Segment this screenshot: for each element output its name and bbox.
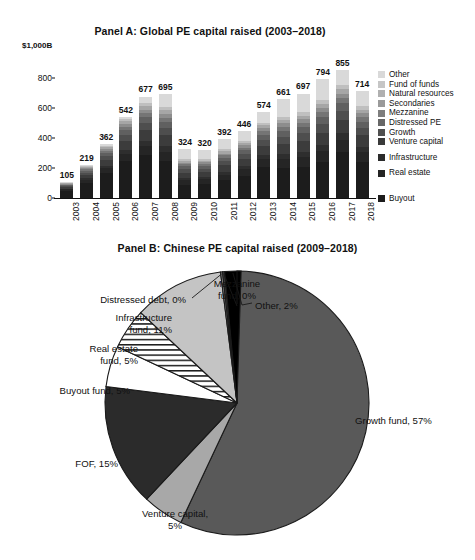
pie-slice-label: Real estatefund, 5% (89, 343, 138, 367)
panel-a-x-tick-label: 2004 (91, 202, 101, 221)
pie-slice-label: Other, 2% (255, 300, 298, 312)
panel-a-bar-group[interactable]: 542 (119, 48, 132, 198)
panel-a-bar-stack (238, 131, 251, 198)
legend-swatch-icon (378, 90, 385, 97)
panel-a-legend-item[interactable]: Mezzanine (378, 108, 475, 118)
panel-a-bar-group[interactable]: 324 (178, 48, 191, 198)
panel-a-legend-item[interactable]: Other (378, 70, 475, 80)
pie-slice-label: Buyout fund, 5% (60, 385, 130, 397)
panel-a-bar-stack (316, 79, 329, 198)
panel-a-bar-segment (60, 191, 73, 198)
panel-a-x-tick-label: 2014 (288, 202, 298, 221)
pie-label-line: fund, 5% (89, 355, 138, 367)
panel-a-bar-stack (100, 144, 113, 198)
pie-label-line: Other, 2% (255, 300, 298, 312)
panel-a-y-tick-mark (52, 168, 55, 169)
panel-a-x-tick-label: 2012 (248, 202, 258, 221)
pie-label-line: Mezzanine (137, 278, 337, 290)
figure-root: Panel A: Global PE capital raised (2003–… (0, 0, 475, 560)
panel-a-bar-group[interactable]: 219 (80, 48, 93, 198)
panel-a-y-tick-label: 400 (12, 133, 52, 143)
panel-a-bar-stack (119, 117, 132, 198)
panel-a-bar-segment (356, 152, 369, 162)
panel-a-bar-value-label: 542 (119, 105, 133, 115)
panel-a-x-tick-label: 2010 (209, 202, 219, 221)
panel-a-legend-item[interactable]: Buyout (378, 194, 475, 204)
panel-a-bar-group[interactable]: 697 (297, 48, 310, 198)
panel-a-x-tick-label: 2013 (268, 202, 278, 221)
panel-a-bar-segment (336, 120, 349, 134)
panel-a-bar-value-label: 105 (60, 170, 74, 180)
panel-a-bar-segment (356, 91, 369, 106)
panel-a-y-tick-mark (52, 138, 55, 139)
panel-a-legend-item[interactable]: Distressed PE (378, 118, 475, 128)
panel-a-bar-segment (159, 152, 172, 162)
pie-slice-label: Infrastructurefund, 11% (115, 312, 172, 336)
panel-a-bar-group[interactable]: 362 (100, 48, 113, 198)
panel-a-y-tick-label: 200 (12, 163, 52, 173)
panel-a-bar-group[interactable]: 695 (159, 48, 172, 198)
panel-a-bar-segment (238, 159, 251, 166)
panel-a-x-tick-label: 2003 (71, 202, 81, 221)
legend-swatch-icon (378, 119, 385, 126)
panel-a-bar-segment (218, 139, 231, 149)
panel-a-bar-group[interactable]: 320 (198, 48, 211, 198)
panel-a-y-tick-label: 0 (12, 193, 52, 203)
panel-a-bar-segment (277, 168, 290, 198)
panel-a-x-tick-label: 2008 (170, 202, 180, 221)
panel-a-bar-group[interactable]: 574 (257, 48, 270, 198)
panel-a-bar-segment (316, 117, 329, 124)
panel-a-bar-segment (316, 151, 329, 162)
panel-a-bar-segment (119, 161, 132, 198)
panel-a-bar-segment (316, 79, 329, 100)
panel-a-legend-label: Fund of funds (389, 80, 439, 90)
panel-a-bar-segment (218, 180, 231, 198)
panel-a-legend-label: Venture capital (389, 137, 443, 147)
panel-a-bar-group[interactable]: 794 (316, 48, 329, 198)
panel-a-bar-segment (257, 167, 270, 198)
panel-a-bar-group[interactable]: 714 (356, 48, 369, 198)
panel-a-legend-item[interactable]: Venture capital (378, 137, 475, 147)
panel-a-bar-group[interactable]: 105 (60, 48, 73, 198)
panel-a-bar-segment (316, 133, 329, 145)
panel-a-bar-segment (139, 123, 152, 130)
panel-a-legend-label: Distressed PE (389, 118, 441, 128)
panel-a-legend-item[interactable]: Secondaries (378, 99, 475, 109)
panel-a-bar-segment (257, 112, 270, 123)
panel-a-bar-segment (119, 154, 132, 161)
panel-a-legend-label: Other (389, 70, 409, 80)
panel-a-bar-value-label: 362 (99, 132, 113, 142)
panel-a-y-tick-mark (52, 78, 55, 79)
panel-a-legend-item[interactable]: Fund of funds (378, 80, 475, 90)
panel-a-x-tick-label: 2007 (150, 202, 160, 221)
panel-a-legend-item[interactable]: Infrastructure (378, 153, 475, 163)
panel-a-legend-item[interactable]: Real estate (378, 168, 475, 178)
panel-a-bar-stack (218, 139, 231, 198)
panel-a-bar-segment (297, 167, 310, 199)
panel-a-legend-item[interactable]: Growth (378, 128, 475, 138)
panel-a-bar-group[interactable]: 392 (218, 48, 231, 198)
panel-a-legend: OtherFund of fundsNatural resourcesSecon… (378, 70, 475, 204)
panel-a-bar-group[interactable]: 446 (238, 48, 251, 198)
pie-label-line: Growth fund, 57% (355, 415, 432, 427)
panel-a-bar-segment (356, 135, 369, 146)
panel-a-bar-group[interactable]: 661 (277, 48, 290, 198)
panel-a-bar-segment (178, 185, 191, 199)
panel-a-bar-stack (139, 96, 152, 198)
panel-a-bar-segment (257, 159, 270, 167)
panel-a-bar-segment (336, 152, 349, 199)
panel-a-y-tick-mark (52, 108, 55, 109)
panel-a-bar-stack (257, 112, 270, 198)
panel-a-x-tick-label: 2011 (229, 202, 239, 220)
panel-a-legend-item[interactable]: Natural resources (378, 89, 475, 99)
panel-a-bar-group[interactable]: 677 (139, 48, 152, 198)
panel-a-bar-segment (277, 137, 290, 144)
panel-a-bar-value-label: 219 (79, 153, 93, 163)
panel-a-bar-segment (297, 141, 310, 152)
panel-a-bar-group[interactable]: 855 (336, 48, 349, 198)
legend-swatch-icon (378, 170, 385, 177)
pie-label-line: Distressed debt, 0% (100, 294, 186, 306)
pie-slice-label: FOF, 15% (75, 458, 118, 470)
panel-a-bar-stack (297, 93, 310, 198)
panel-a-bar-segment (356, 162, 369, 198)
